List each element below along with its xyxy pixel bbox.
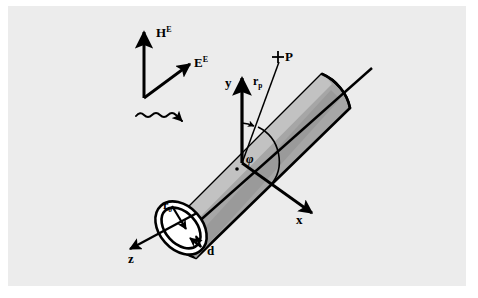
diagram-canvas	[0, 0, 478, 298]
label-point-p: P	[285, 50, 293, 63]
label-wall-thickness: d	[207, 244, 214, 257]
label-axis-z: z	[128, 252, 134, 265]
right-angle-dot	[235, 167, 239, 171]
incident-field-vectors	[144, 32, 190, 98]
label-radius-vector-rp: rp	[253, 75, 262, 90]
label-azimuth-angle: φ	[246, 152, 254, 165]
figure-container: HE EE P rp y x z ro d φ	[0, 0, 478, 298]
label-axis-x: x	[296, 213, 303, 226]
label-axis-y: y	[225, 76, 232, 89]
label-h-field: HE	[156, 26, 172, 39]
phi-angle-arc-small	[242, 123, 254, 126]
point-p-marker	[272, 51, 284, 63]
cylinder-axis-line	[178, 68, 372, 240]
incident-wave-squiggle	[136, 113, 182, 121]
label-tube-radius: ro	[163, 199, 172, 214]
label-e-field: EE	[194, 56, 208, 69]
